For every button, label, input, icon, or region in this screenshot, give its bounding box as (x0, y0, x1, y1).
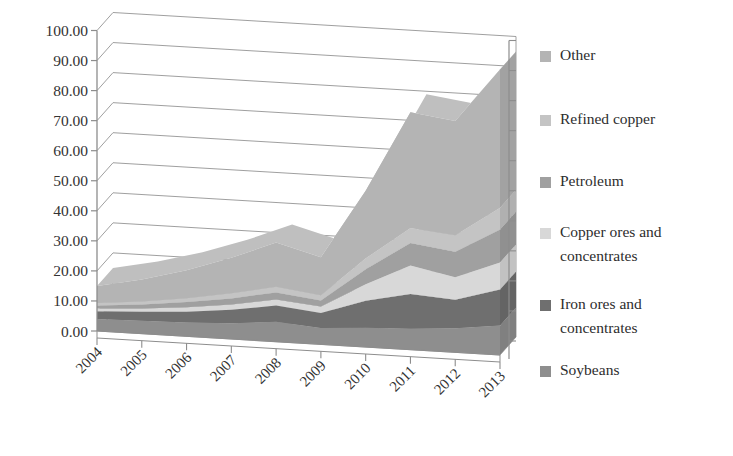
y-axis-tick-label: 60.00 (53, 142, 88, 159)
legend-swatch (540, 177, 551, 188)
chart-canvas: 0.0010.0020.0030.0040.0050.0060.0070.008… (0, 0, 733, 456)
legend-swatch (540, 366, 551, 377)
legend-label: Soybeans (560, 361, 619, 378)
chart-legend: OtherRefined copperPetroleumCopper ores … (540, 46, 662, 378)
y-axis-tick-label: 0.00 (61, 323, 88, 340)
legend-label: Iron ores and (560, 295, 642, 312)
y-axis-tick-label: 30.00 (53, 232, 88, 249)
y-axis-tick-labels: 0.0010.0020.0030.0040.0050.0060.0070.008… (45, 22, 88, 340)
legend-label: Petroleum (560, 172, 624, 189)
y-axis-tick-label: 80.00 (53, 82, 88, 99)
x-axis-tick-label: 2008 (252, 354, 285, 387)
x-axis-tick-label: 2013 (476, 368, 509, 401)
x-axis-tick-label: 2012 (431, 365, 464, 398)
y-axis-tick-label: 10.00 (53, 292, 88, 309)
x-axis-tick-label: 2007 (207, 351, 240, 384)
legend-swatch (540, 228, 551, 239)
y-axis-tick-label: 50.00 (53, 172, 88, 189)
x-axis-tick-label: 2010 (341, 360, 374, 393)
legend-label: Other (560, 46, 596, 63)
y-axis-tick-label: 40.00 (53, 202, 88, 219)
legend-swatch (540, 115, 551, 126)
stacked-areas (97, 52, 516, 355)
y-axis-tick-label: 70.00 (53, 112, 88, 129)
legend-swatch (540, 51, 551, 62)
legend-label-continued: concentrates (560, 319, 637, 336)
stacked-area-chart: 0.0010.0020.0030.0040.0050.0060.0070.008… (0, 0, 733, 456)
x-axis-tick-label: 2011 (386, 362, 418, 394)
x-axis-tick-label: 2005 (117, 346, 150, 379)
y-axis-tick-label: 100.00 (45, 22, 88, 39)
legend-swatch (540, 300, 551, 311)
x-axis-tick-label: 2009 (296, 357, 329, 390)
legend-label: Refined copper (560, 110, 656, 127)
x-axis-tick-label: 2004 (73, 343, 106, 376)
legend-label-continued: concentrates (560, 247, 637, 264)
legend-label: Copper ores and (560, 223, 662, 240)
y-axis-tick-label: 20.00 (53, 262, 88, 279)
y-axis-tick-label: 90.00 (53, 52, 88, 69)
x-axis-tick-label: 2006 (162, 349, 195, 382)
